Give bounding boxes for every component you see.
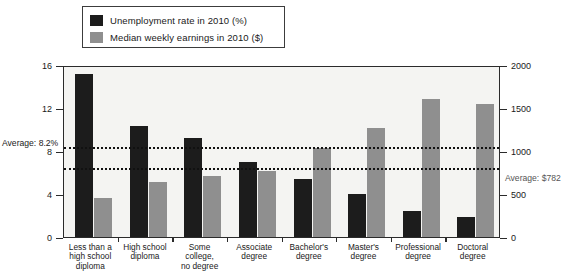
left-axis-tick-label: 8 — [30, 148, 52, 157]
bar-group — [239, 67, 276, 237]
bar-earnings — [94, 198, 112, 237]
bar-unemployment — [130, 126, 148, 237]
bar-unemployment — [294, 179, 312, 237]
left-axis-tick-label: 4 — [30, 191, 52, 200]
bar-unemployment — [348, 194, 366, 237]
chart-bars-container — [64, 67, 499, 237]
legend-swatch-unemployment — [90, 15, 103, 26]
chart-legend: Unemployment rate in 2010 (%) Median wee… — [82, 6, 285, 48]
bar-unemployment — [403, 211, 421, 237]
bar-earnings — [203, 176, 221, 237]
right-axis-tick — [500, 66, 507, 67]
right-axis-tick-label: 0 — [511, 234, 516, 243]
bar-group — [403, 67, 440, 237]
right-axis-tick-label: 2000 — [511, 62, 531, 71]
x-axis-tick — [172, 238, 173, 242]
bar-unemployment — [184, 138, 202, 237]
bar-earnings — [367, 128, 385, 237]
legend-item-earnings: Median weekly earnings in 2010 ($) — [90, 29, 284, 46]
right-axis-tick — [500, 238, 507, 239]
reference-line-average-earnings — [64, 168, 499, 170]
left-axis-tick — [56, 66, 63, 67]
average-earnings-annotation: Average: $782 — [505, 174, 561, 183]
left-axis-tick — [56, 109, 63, 110]
x-axis-tick — [445, 238, 446, 242]
bar-group — [348, 67, 385, 237]
legend-label-unemployment: Unemployment rate in 2010 (%) — [110, 15, 247, 26]
legend-item-unemployment: Unemployment rate in 2010 (%) — [90, 12, 284, 29]
category-label: Doctoral degree — [441, 243, 505, 262]
bar-group — [457, 67, 494, 237]
bar-earnings — [149, 182, 167, 237]
right-axis-tick-label: 500 — [511, 191, 526, 200]
left-axis-tick — [56, 238, 63, 239]
bar-unemployment — [75, 74, 93, 237]
bar-group — [184, 67, 221, 237]
legend-swatch-earnings — [90, 32, 103, 43]
legend-label-earnings: Median weekly earnings in 2010 ($) — [110, 32, 263, 43]
bar-earnings — [258, 171, 276, 237]
right-axis-tick-label: 1500 — [511, 105, 531, 114]
bar-unemployment — [457, 217, 475, 237]
right-axis-tick — [500, 195, 507, 196]
left-axis-tick — [56, 152, 63, 153]
x-axis-tick — [336, 238, 337, 242]
right-axis-tick-label: 1000 — [511, 148, 531, 157]
x-axis-tick — [282, 238, 283, 242]
bar-group — [75, 67, 112, 237]
bar-earnings — [313, 148, 331, 237]
right-axis-tick — [500, 152, 507, 153]
reference-line-average-unemployment — [64, 147, 499, 149]
bar-group — [130, 67, 167, 237]
bar-unemployment — [239, 162, 257, 237]
left-axis-tick-label: 12 — [30, 105, 52, 114]
left-axis-tick-label: 0 — [30, 234, 52, 243]
chart-plot-area — [63, 66, 500, 238]
x-axis-tick — [227, 238, 228, 242]
average-unemployment-annotation: Average: 8.2% — [2, 139, 58, 148]
right-axis-tick — [500, 109, 507, 110]
x-axis-tick — [118, 238, 119, 242]
left-axis-tick-label: 16 — [30, 62, 52, 71]
bar-group — [294, 67, 331, 237]
left-axis-tick — [56, 195, 63, 196]
bar-earnings — [476, 104, 494, 237]
x-axis-tick — [391, 238, 392, 242]
